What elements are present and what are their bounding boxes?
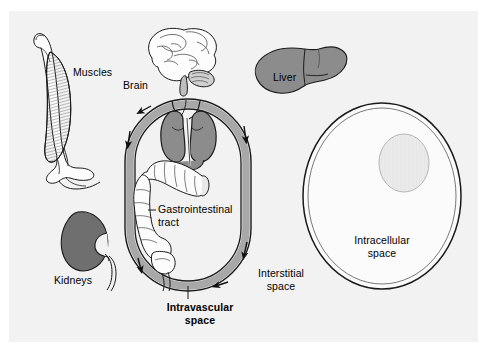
muscles-illustration: [34, 34, 100, 189]
diagram-artwork: [0, 0, 487, 352]
brain-illustration: [149, 28, 217, 96]
cell-illustration: [303, 103, 461, 289]
label-kidneys: Kidneys: [54, 274, 92, 287]
figure-container: Muscles Brain Liver Kidneys Gastrointest…: [0, 0, 487, 352]
label-intracellular-space: Intracellular space: [336, 234, 428, 259]
label-liver: Liver: [273, 71, 296, 84]
label-gastrointestinal-tract: Gastrointestinal tract: [158, 203, 233, 228]
label-intravascular-space: Intravascular space: [152, 301, 248, 326]
label-brain: Brain: [123, 79, 148, 92]
label-muscles: Muscles: [73, 66, 112, 79]
label-interstitial-space: Interstitial space: [248, 267, 314, 292]
liver-illustration: [255, 47, 347, 93]
